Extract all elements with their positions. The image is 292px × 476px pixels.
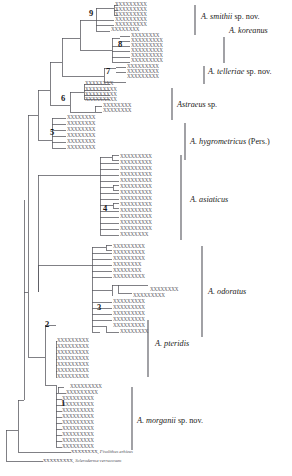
node-7-number: 7 bbox=[106, 67, 110, 76]
tip-label: XXXXXXXX bbox=[103, 108, 131, 114]
node-3-number: 3 bbox=[97, 303, 101, 312]
node-9-number: 9 bbox=[89, 9, 93, 18]
tip-label: XXXXXXXX bbox=[120, 329, 148, 335]
clade-telleriae-label: A. telleriae sp. nov. bbox=[208, 67, 272, 76]
clade-pteridis-label: A. pteridis bbox=[155, 339, 189, 348]
outgroup-scleroderma-label: XXXXXXXXX, Scleroderma verrucosum bbox=[43, 458, 121, 463]
outgroup-tip-code: XXXXXXXXX, bbox=[43, 458, 75, 463]
clade-morganii-label: A. morganii sp. nov. bbox=[137, 416, 203, 425]
tip-label: XXXXXXXXX bbox=[113, 274, 145, 280]
node-2-number: 2 bbox=[45, 320, 49, 329]
clade-hygrometricus-label: A. hygrometricus (Pers.) bbox=[190, 137, 270, 146]
clade-astraeus-sp-label: Astraeus sp. bbox=[177, 100, 217, 109]
clade-odoratus-label: A. odoratus bbox=[208, 287, 246, 296]
clade-koreanus-label: A. koreanus bbox=[229, 26, 268, 35]
outgroup-taxon-name: Pisolithus arhizus bbox=[100, 449, 133, 454]
outgroup-taxon-name: Scleroderma verrucosum bbox=[75, 458, 121, 463]
node-8-number: 8 bbox=[118, 40, 122, 49]
tip-label: XXXXXXXX bbox=[120, 232, 148, 238]
node-5-number: 5 bbox=[50, 128, 54, 137]
outgroup-tip-code: XXXXXXXX, bbox=[71, 449, 100, 454]
outgroup-pisolithus-label: XXXXXXXX, Pisolithus arhizus bbox=[71, 449, 133, 454]
tip-label: XXXXXXXXX bbox=[57, 374, 89, 380]
node-6-number: 6 bbox=[61, 94, 65, 103]
clade-smithii-label: A. smithii sp. nov. bbox=[201, 12, 260, 21]
clade-asiaticus-label: A. asiaticus bbox=[190, 195, 228, 204]
node-1-number: 1 bbox=[61, 399, 65, 408]
tip-label: XXXXXXXXX bbox=[127, 74, 159, 80]
tip-label: XXXXXXXX bbox=[67, 145, 95, 151]
phylogenetic-tree-figure: XXXXXXXXXXXXXXXXXXXXXXXXXXXXXXXXXXXXXXXX… bbox=[0, 0, 292, 476]
node-4-number: 4 bbox=[103, 204, 107, 213]
